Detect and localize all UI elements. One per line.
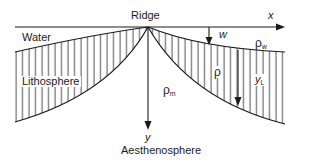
lithosphere-label: Lithosphere xyxy=(21,76,81,87)
rho-m-label: ρm xyxy=(163,84,176,97)
x-axis-label: x xyxy=(268,10,274,21)
rho-label: ρ xyxy=(213,66,222,78)
rho-m-sub: m xyxy=(170,90,176,97)
y-axis xyxy=(145,27,152,130)
y-axis-arrowhead-icon xyxy=(145,121,152,130)
y-axis-label: y xyxy=(145,132,151,143)
rho-m-base: ρ xyxy=(163,83,170,97)
depth-w-arrow xyxy=(206,27,213,45)
water-label: Water xyxy=(22,32,51,43)
ridge-label: Ridge xyxy=(131,10,160,21)
x-axis-arrowhead-icon xyxy=(276,24,285,31)
yL-sub: L xyxy=(261,79,265,86)
w-label: w xyxy=(219,29,227,40)
rho-w-label: ρw xyxy=(255,37,267,50)
rho-w-base: ρ xyxy=(255,36,262,50)
rho-w-sub: w xyxy=(262,43,267,50)
yL-label: yL xyxy=(254,74,265,86)
aesthenosphere-label: Aesthenosphere xyxy=(121,145,201,156)
